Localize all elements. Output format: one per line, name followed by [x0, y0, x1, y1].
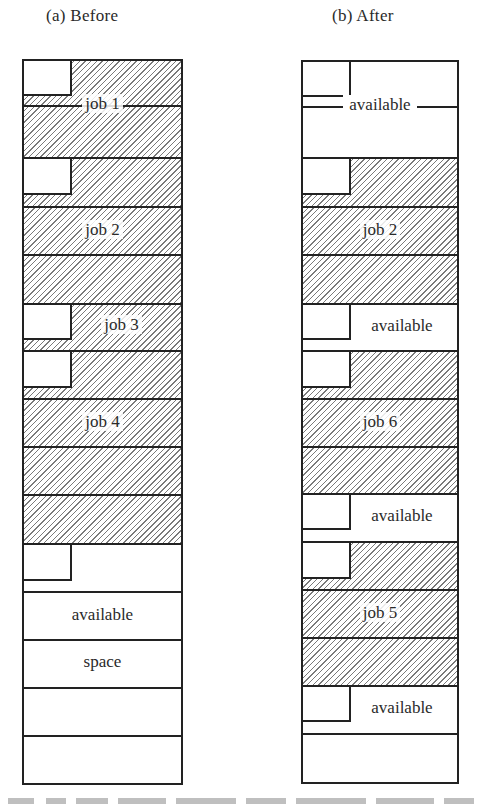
before-available-label: available [24, 605, 181, 625]
after-available-label-3: available [347, 506, 457, 526]
before-free-block [24, 543, 181, 591]
after-free-block-4: available [303, 685, 457, 733]
segment-header-box [303, 687, 351, 722]
figure-caption-cutoff [0, 796, 483, 804]
after-memory-column: available job 2 available job 6 availabl… [301, 60, 459, 784]
after-available-label-2: available [347, 316, 457, 336]
segment-header-box [24, 61, 72, 96]
after-caption: (b) After [332, 6, 394, 26]
segment-header-box [24, 159, 72, 195]
before-job3-label: job 3 [62, 315, 181, 335]
segment-header-box [303, 495, 351, 530]
after-free-block-2: available [303, 303, 457, 351]
before-job2-block [24, 157, 181, 206]
before-job4-label: job 4 [24, 412, 181, 432]
after-free-block-3: available [303, 493, 457, 541]
after-job6-row: job 6 [303, 398, 457, 447]
before-job3-block: job 3 [24, 303, 181, 351]
before-job2-row [24, 254, 181, 303]
after-job2-label: job 2 [303, 220, 457, 240]
segment-header-box [303, 543, 351, 579]
segment-header-box [303, 62, 351, 97]
segment-header-box [303, 352, 351, 388]
after-available-label-4: available [347, 698, 457, 718]
after-job6-block [303, 350, 457, 399]
before-job1-label: job 1 [24, 94, 181, 114]
segment-header-box [303, 159, 351, 195]
before-memory-column: job 1 job 2 job 3 job 4 available space [22, 59, 183, 785]
before-free-row: space [24, 639, 181, 687]
segment-header-box [303, 305, 351, 340]
after-job6-row [303, 446, 457, 494]
before-job2-label: job 2 [24, 220, 181, 240]
before-caption: (a) Before [46, 6, 118, 26]
before-space-label: space [24, 652, 181, 672]
after-available-label-1: available [303, 95, 457, 115]
segment-header-box [24, 352, 72, 388]
after-free-block-1: available [303, 62, 457, 159]
after-job2-block [303, 157, 457, 206]
segment-header-box [24, 545, 72, 581]
before-free-row [24, 735, 181, 783]
after-job6-label: job 6 [303, 412, 457, 432]
before-job2-row: job 2 [24, 206, 181, 255]
before-free-row: available [24, 591, 181, 639]
before-job4-row: job 4 [24, 398, 181, 447]
before-job4-row [24, 446, 181, 495]
after-job5-block [303, 541, 457, 590]
before-job1-block: job 1 [24, 61, 181, 159]
after-job5-row [303, 637, 457, 686]
after-job5-label: job 5 [303, 603, 457, 623]
after-free-row [303, 733, 457, 782]
after-job2-row [303, 254, 457, 303]
after-job2-row: job 2 [303, 206, 457, 255]
before-job4-block [24, 350, 181, 399]
before-job4-row [24, 494, 181, 544]
after-job5-row: job 5 [303, 589, 457, 638]
before-free-row [24, 687, 181, 735]
